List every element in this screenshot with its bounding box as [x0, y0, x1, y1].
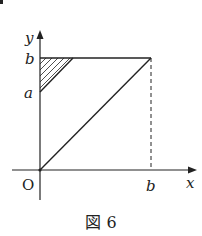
figure-caption: 図 6: [85, 213, 116, 232]
x-tick-b-label: b: [146, 177, 156, 195]
y-tick-b-label: b: [25, 50, 35, 68]
y-tick-a-label: a: [24, 84, 33, 102]
x-axis-label: x: [186, 174, 195, 192]
y-axis-label: y: [24, 29, 34, 47]
scan-mark: [0, 0, 3, 4]
origin-point: [38, 168, 41, 171]
y-axis-arrow-icon: [37, 30, 44, 39]
y-axis: [37, 30, 44, 200]
x-axis-arrow-icon: [188, 167, 197, 174]
shaded-region: [40, 58, 76, 94]
origin-label: O: [22, 176, 34, 194]
figure-6-diagram: y b a O b x 図 6: [0, 0, 202, 236]
line-y-equals-x-plus-a: [40, 58, 73, 92]
